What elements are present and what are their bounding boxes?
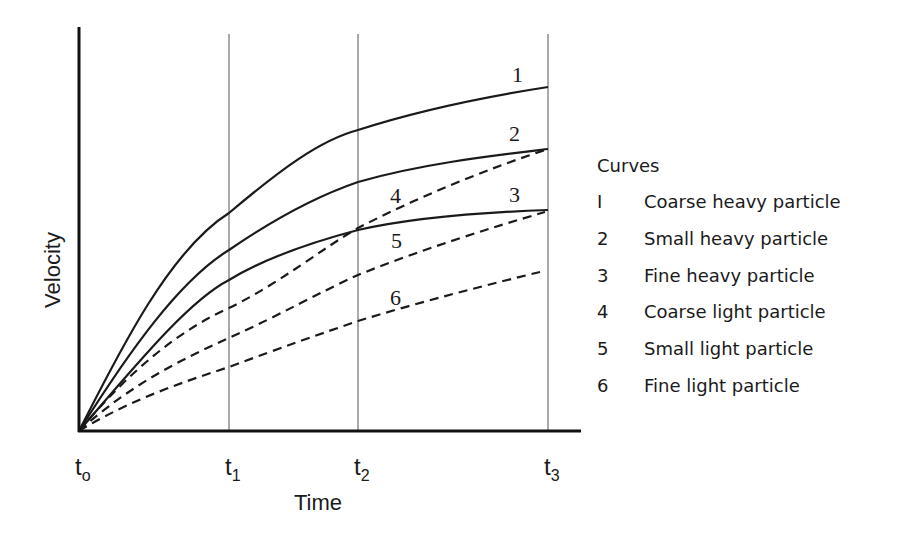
curve-label-4: 4 xyxy=(390,183,401,208)
legend-entry-label: Small light particle xyxy=(644,335,813,372)
curve-5 xyxy=(79,212,545,431)
curve-label-1: 1 xyxy=(512,62,523,87)
legend-entry: 5Small light particle xyxy=(597,335,841,372)
curve-label-5: 5 xyxy=(391,228,402,253)
legend-entry-number: 6 xyxy=(597,372,644,409)
legend-entry-label: Coarse heavy particle xyxy=(644,188,841,225)
legend-entry-number: 3 xyxy=(597,262,644,299)
legend-entry-label: Coarse light particle xyxy=(644,298,826,335)
legend-entry: ICoarse heavy particle xyxy=(597,188,841,225)
x-axis-label: Time xyxy=(294,490,342,515)
gridlines xyxy=(229,34,548,431)
x-tick-label-1: t1 xyxy=(225,453,241,484)
curve-1 xyxy=(79,87,548,431)
axes xyxy=(78,27,581,432)
legend-entry-number: I xyxy=(597,188,644,225)
legend-title: Curves xyxy=(597,152,841,188)
legend-entry-label: Small heavy particle xyxy=(644,225,828,262)
legend-entry: 4Coarse light particle xyxy=(597,298,841,335)
legend: Curves ICoarse heavy particle2Small heav… xyxy=(597,152,841,409)
curve-labels: 123456 xyxy=(390,62,523,310)
y-axis-label: Velocity xyxy=(40,232,65,308)
curve-3 xyxy=(79,210,548,431)
curve-label-3: 3 xyxy=(509,182,520,207)
legend-entry-label: Fine heavy particle xyxy=(644,262,815,299)
legend-entry-number: 4 xyxy=(597,298,644,335)
curve-4 xyxy=(79,149,548,431)
x-tick-label-2: t2 xyxy=(354,453,370,484)
x-tick-label-3: t3 xyxy=(544,453,560,484)
legend-entry: 2Small heavy particle xyxy=(597,225,841,262)
legend-entry-number: 2 xyxy=(597,225,644,262)
curve-label-2: 2 xyxy=(509,121,520,146)
x-tick-labels: tot1t2t3 xyxy=(75,453,560,484)
curve-2 xyxy=(79,149,548,431)
x-tick-label-o: to xyxy=(75,453,91,484)
legend-entry-number: 5 xyxy=(597,335,644,372)
curves xyxy=(79,87,548,431)
curve-label-6: 6 xyxy=(390,285,401,310)
legend-entry: 3Fine heavy particle xyxy=(597,262,841,299)
legend-entry-label: Fine light particle xyxy=(644,372,800,409)
legend-entry: 6Fine light particle xyxy=(597,372,841,409)
